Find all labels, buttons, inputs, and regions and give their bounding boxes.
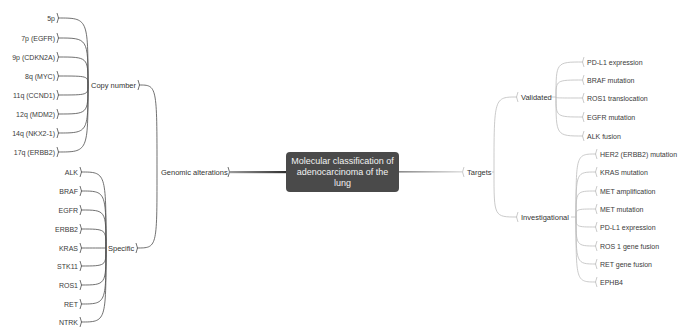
leaf-node-label[interactable]: ROS1 bbox=[59, 281, 78, 290]
main-branch-label[interactable]: Targets bbox=[467, 168, 492, 177]
leaf-node-label[interactable]: EGFR bbox=[59, 206, 78, 215]
leaf-node-label[interactable]: ALK bbox=[65, 168, 78, 177]
leaf-node-label[interactable]: PD-L1 expression bbox=[587, 58, 643, 67]
leaf-connector bbox=[58, 85, 88, 133]
leaf-node-label[interactable]: ERBB2 bbox=[55, 225, 78, 234]
leaf-node-label[interactable]: 8q (MYC) bbox=[25, 72, 55, 81]
connector-left-main bbox=[230, 171, 286, 173]
leaf-node-label[interactable]: 14q (NKX2-1) bbox=[12, 129, 55, 138]
leaf-node-label[interactable]: NTRK bbox=[59, 318, 78, 327]
leaf-connector bbox=[556, 80, 583, 97]
central-topic-title: Molecular classification of adenocarcino… bbox=[290, 156, 395, 189]
leaf-connector bbox=[58, 38, 88, 85]
main-branch-bracket-icon bbox=[228, 167, 230, 177]
leaf-connector bbox=[81, 248, 106, 285]
leaf-node-label[interactable]: KRAS bbox=[59, 244, 78, 253]
leaf-node-label[interactable]: 17q (ERBB2) bbox=[14, 148, 55, 157]
leaf-connector bbox=[576, 209, 596, 217]
leaf-node-label[interactable]: RET gene fusion bbox=[600, 260, 652, 269]
leaf-connector bbox=[576, 217, 596, 264]
leaf-connector bbox=[81, 191, 106, 248]
leaf-node-label[interactable]: 9p (CDKN2A) bbox=[12, 53, 55, 62]
leaf-node-label[interactable]: EPHB4 bbox=[600, 278, 623, 287]
leaf-node-label[interactable]: ROS1 translocation bbox=[587, 94, 648, 103]
group-connector bbox=[139, 85, 157, 172]
leaf-connector bbox=[58, 85, 88, 95]
leaf-node-label[interactable]: 7p (EGFR) bbox=[21, 34, 55, 43]
leaf-connector bbox=[81, 248, 106, 266]
leaf-node-label[interactable]: RET bbox=[64, 300, 78, 309]
group-node-label[interactable]: Investigational bbox=[521, 213, 569, 222]
central-topic-node[interactable]: Molecular classification of adenocarcino… bbox=[286, 152, 399, 192]
leaf-connector bbox=[58, 57, 88, 85]
group-node-label[interactable]: Validated bbox=[521, 93, 552, 102]
connector-right-main bbox=[399, 171, 462, 173]
group-node-label[interactable]: Copy number bbox=[91, 81, 136, 90]
leaf-connector bbox=[576, 217, 596, 246]
leaf-connector bbox=[576, 154, 596, 217]
leaf-connector bbox=[58, 18, 88, 85]
leaf-connector bbox=[576, 217, 596, 227]
leaf-connector bbox=[81, 229, 106, 248]
leaf-connector bbox=[556, 97, 583, 98]
leaf-node-label[interactable]: ROS 1 gene fusion bbox=[600, 242, 659, 251]
leaf-connector bbox=[556, 97, 583, 117]
leaf-node-label[interactable]: ALK fusion bbox=[587, 132, 621, 141]
group-connector bbox=[494, 97, 517, 172]
leaf-node-label[interactable]: STK11 bbox=[57, 262, 78, 271]
leaf-node-label[interactable]: KRAS mutation bbox=[600, 168, 648, 177]
main-branch-label[interactable]: Genomic alterations bbox=[161, 168, 228, 177]
leaf-connector bbox=[576, 191, 596, 217]
leaf-node-label[interactable]: HER2 (ERBB2) mutation bbox=[600, 150, 677, 159]
group-connector bbox=[494, 172, 517, 217]
leaf-node-label[interactable]: 12q (MDM2) bbox=[16, 110, 55, 119]
leaf-connector bbox=[81, 248, 106, 304]
group-node-label[interactable]: Specific bbox=[108, 244, 134, 253]
group-connector bbox=[137, 172, 157, 248]
leaf-node-label[interactable]: EGFR mutation bbox=[587, 113, 635, 122]
leaf-node-label[interactable]: PD-L1 expression bbox=[600, 223, 656, 232]
main-branch-bracket-icon bbox=[463, 167, 465, 177]
leaf-node-label[interactable]: 5p bbox=[47, 14, 55, 23]
leaf-connector bbox=[58, 85, 88, 114]
leaf-node-label[interactable]: MET mutation bbox=[600, 205, 643, 214]
leaf-connector bbox=[556, 62, 583, 97]
leaf-connector bbox=[58, 76, 88, 85]
leaf-node-label[interactable]: 11q (CCND1) bbox=[13, 91, 55, 100]
leaf-node-label[interactable]: BRAF bbox=[59, 187, 78, 196]
leaf-node-label[interactable]: BRAF mutation bbox=[587, 76, 634, 85]
leaf-node-label[interactable]: MET amplification bbox=[600, 187, 656, 196]
